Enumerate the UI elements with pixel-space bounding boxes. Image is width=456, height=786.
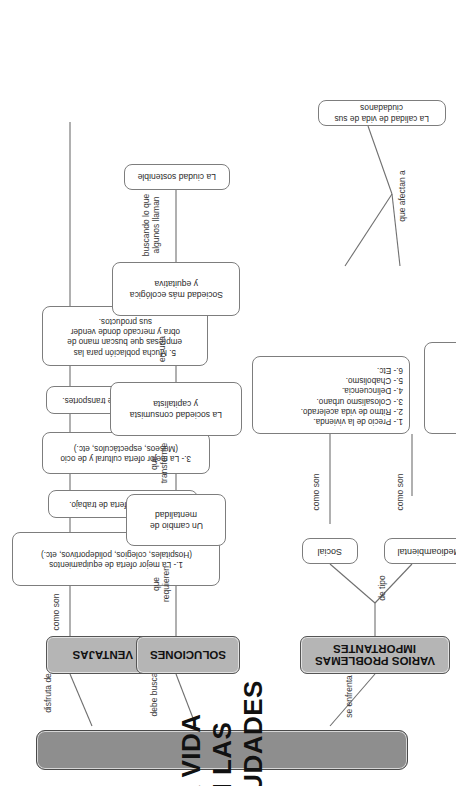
concept-map-canvas: LA VIDA EN LAS CIUDADES se enfrenta a de…	[0, 0, 456, 786]
solucion-step-1: Un cambio de mentalidad	[126, 494, 226, 546]
list-item: 6.- Etc.	[301, 365, 403, 375]
label-medioambiental-como-son: como son	[396, 470, 406, 514]
calidad-de-vida-box: La calidad de vida de sus ciudadanos	[318, 100, 446, 126]
label-que-requieren: que requieren	[152, 558, 172, 610]
label-en-una: en una	[158, 326, 168, 372]
problemas-sociales-list: 1.- Precio de la vivienda. 2.- Ritmo de …	[252, 356, 410, 434]
label-buscando-algunos-llaman: buscando lo que algunos llaman	[142, 192, 162, 258]
problema-tipo-medioambiental: Medioambiental	[384, 538, 456, 564]
section-soluciones[interactable]: SOLUCIONES	[136, 636, 240, 674]
page-title: LA VIDA EN LAS CIUDADES	[36, 730, 408, 770]
label-que-transforme: que transforme	[150, 436, 170, 490]
solucion-step-3: Sociedad más ecológica y equitativa	[112, 262, 240, 316]
label-de-tipo: de tipo	[378, 568, 388, 608]
list-item: 1.- Precio de la vivienda.	[301, 416, 403, 426]
list-item: 4.- Delincuencia.	[301, 385, 403, 395]
list-item: 5.- Chabolismo.	[301, 375, 403, 385]
list-item: 3.- Colosalismo urbano.	[301, 395, 403, 405]
problemas-medioambientales-list: 1.- La contaminación atmosférica. 2.- La…	[424, 342, 456, 434]
section-varios-problemas-importantes[interactable]: VARIOS PROBLEMAS IMPORTANTES	[300, 636, 450, 674]
label-social-como-son: como son	[312, 470, 322, 514]
label-que-afectan-a: que afectan a	[398, 166, 408, 226]
ventaja-item-3: 3.- La mejor oferta cultural y de ocio (…	[42, 432, 210, 474]
list-item: 2.- Ritmo de vida acelerado.	[301, 406, 403, 416]
social-items: 1.- Precio de la vivienda. 2.- Ritmo de …	[301, 365, 403, 427]
solucion-step-2: La sociedad consumista y capitalista	[110, 382, 242, 436]
label-ventajas-como-son: como son	[52, 590, 62, 634]
problema-tipo-social: Social	[302, 538, 358, 564]
solucion-step-4: La ciudad sostenible	[124, 164, 230, 190]
